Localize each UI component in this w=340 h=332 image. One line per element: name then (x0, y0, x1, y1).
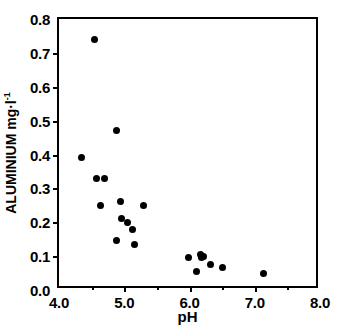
y-axis-tick-label: 0.4 (30, 146, 50, 163)
plot-area (59, 19, 316, 286)
y-axis-title-main: ALUMINIUM mg·l (3, 100, 19, 214)
y-axis-tick (53, 121, 59, 123)
data-point (91, 36, 98, 43)
x-axis-tick (255, 286, 257, 292)
y-axis-tick-label: 0.0 (30, 282, 50, 299)
x-axis-tick (190, 286, 192, 292)
data-point (260, 270, 267, 277)
data-point (207, 261, 214, 268)
y-axis-tick-label: 0.6 (30, 78, 50, 95)
data-point (124, 219, 131, 226)
data-point (117, 198, 124, 205)
y-axis-tick (53, 188, 59, 190)
y-axis-tick-label: 0.3 (30, 180, 50, 197)
data-point (78, 154, 85, 161)
data-point (113, 237, 120, 244)
y-axis-tick (53, 222, 59, 224)
x-axis-tick (124, 286, 126, 292)
y-axis-tick (53, 87, 59, 89)
plot-frame: 0.00.10.20.30.40.50.60.70.84.05.06.07.08… (57, 17, 318, 288)
y-axis-title: ALUMINIUM mg·l-1 (0, 17, 22, 288)
x-axis-title: pH (57, 308, 318, 325)
data-point (101, 175, 108, 182)
y-axis-tick-label: 0.1 (30, 248, 50, 265)
data-point (200, 253, 207, 260)
data-point (193, 268, 200, 275)
data-point (131, 241, 138, 248)
data-point (129, 226, 136, 233)
y-axis-tick-label: 0.2 (30, 214, 50, 231)
y-axis-tick (53, 155, 59, 157)
y-axis-tick-label: 0.7 (30, 44, 50, 61)
x-axis-minor-tick (157, 286, 159, 290)
data-point (113, 127, 120, 134)
data-point (140, 202, 147, 209)
y-axis-tick-label: 0.5 (30, 112, 50, 129)
y-axis-title-text: ALUMINIUM mg·l-1 (3, 92, 19, 214)
data-point (93, 175, 100, 182)
x-axis-minor-tick (92, 286, 94, 290)
x-axis-minor-tick (222, 286, 224, 290)
y-axis-tick (53, 256, 59, 258)
scatter-plot-figure: ALUMINIUM mg·l-1 0.00.10.20.30.40.50.60.… (0, 0, 340, 332)
data-point (185, 254, 192, 261)
data-point (97, 202, 104, 209)
x-axis-minor-tick (287, 286, 289, 290)
y-axis-tick-label: 0.8 (30, 11, 50, 28)
y-axis-title-exponent: -1 (2, 92, 12, 100)
y-axis-tick (53, 53, 59, 55)
data-point (219, 264, 226, 271)
